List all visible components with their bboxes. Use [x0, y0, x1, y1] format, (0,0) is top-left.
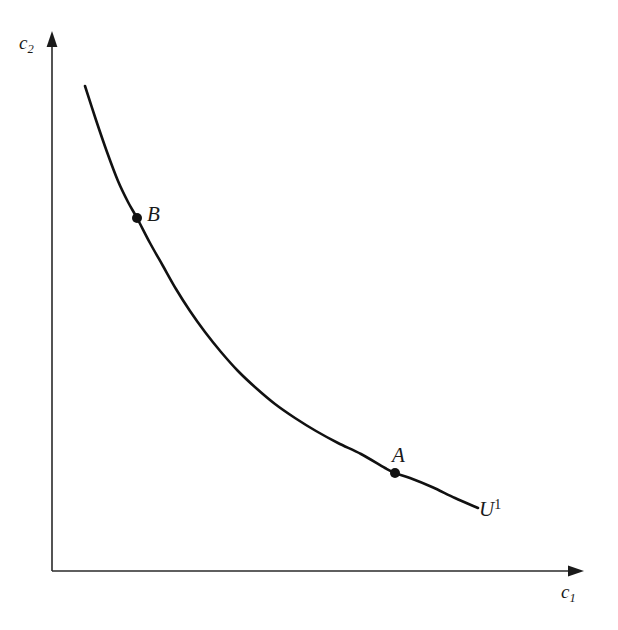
- indifference-curve-path: [85, 86, 478, 508]
- curve-label-superscript: 1: [494, 497, 501, 512]
- curve-label-base: U: [479, 497, 494, 521]
- curve-label-u1: U1: [479, 498, 501, 520]
- y-axis-label: c2: [19, 33, 34, 55]
- plot-canvas: [0, 0, 618, 630]
- x-axis-label: c1: [561, 582, 576, 604]
- indifference-curve-figure: c2 c1 B A U1: [0, 0, 618, 630]
- x-axis-label-subscript: 1: [569, 591, 575, 605]
- y-axis-arrowhead-icon: [47, 31, 58, 47]
- x-axis-arrowhead-icon: [568, 566, 584, 577]
- y-axis-label-subscript: 2: [27, 42, 33, 56]
- point-label-B: B: [147, 204, 160, 225]
- point-label-A: A: [392, 445, 405, 466]
- point-marker-B: [132, 213, 142, 223]
- point-marker-A: [390, 468, 400, 478]
